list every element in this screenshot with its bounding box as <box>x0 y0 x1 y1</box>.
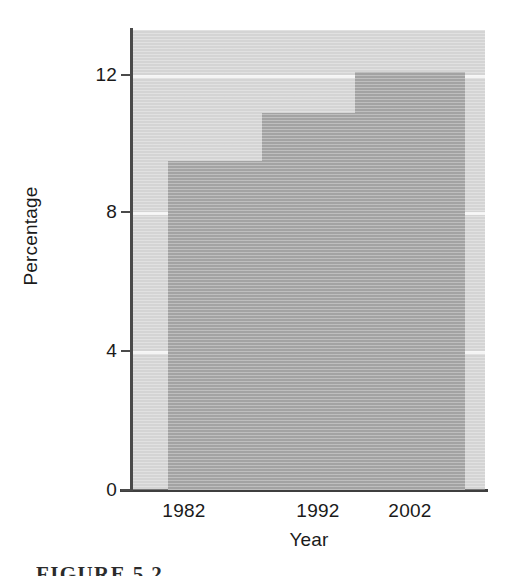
y-tick-label-0: 0 <box>77 479 117 501</box>
x-axis-title: Year <box>133 529 485 551</box>
y-tick-label-4: 4 <box>77 340 117 362</box>
y-tick-label-8: 8 <box>77 201 117 223</box>
bar-1982[interactable] <box>168 161 275 490</box>
bar-2002[interactable] <box>355 72 465 490</box>
plot-area <box>133 30 485 490</box>
y-tick-0 <box>121 489 133 491</box>
y-tick-12 <box>121 74 133 76</box>
figure-container: 12 8 4 0 1982 1992 2002 Percentage Year … <box>0 0 506 576</box>
y-tick-8 <box>121 211 133 213</box>
x-tick-label-2002: 2002 <box>341 500 479 522</box>
y-tick-4 <box>121 350 133 352</box>
figure-caption: FIGURE 5.2 <box>36 562 496 576</box>
y-tick-label-12: 12 <box>77 64 117 86</box>
y-axis-title: Percentage <box>20 156 42 316</box>
y-axis-line <box>130 28 133 492</box>
x-tick-label-1982: 1982 <box>115 500 253 522</box>
